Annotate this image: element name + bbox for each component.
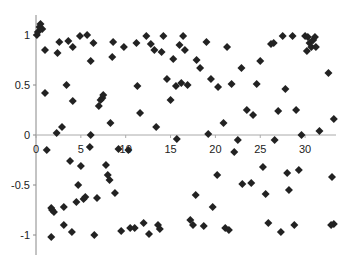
y-tick-label: 1 xyxy=(24,29,30,41)
data-point-diamond xyxy=(249,111,257,119)
data-point-diamond xyxy=(93,194,101,202)
data-point-diamond xyxy=(283,169,291,177)
data-point-diamond xyxy=(167,96,175,104)
x-tick-label: 0 xyxy=(33,143,39,155)
y-tick-label: -1 xyxy=(20,229,30,241)
data-point-diamond xyxy=(176,41,184,49)
data-point-diamond xyxy=(109,38,117,46)
data-point-diamond xyxy=(72,198,80,206)
data-point-diamond xyxy=(53,129,61,137)
data-point-diamond xyxy=(142,32,150,40)
data-point-diamond xyxy=(158,48,166,56)
data-point-diamond xyxy=(87,57,95,65)
data-point-diamond xyxy=(83,31,91,39)
data-point-diamond xyxy=(69,97,77,105)
data-point-diamond xyxy=(234,136,242,144)
data-point-diamond xyxy=(200,222,208,230)
data-point-diamond xyxy=(312,43,320,51)
data-point-diamond xyxy=(202,38,210,46)
data-point-diamond xyxy=(298,131,306,139)
data-point-diamond xyxy=(64,37,72,45)
data-point-diamond xyxy=(277,228,285,236)
data-point-diamond xyxy=(230,148,238,156)
data-point-diamond xyxy=(181,46,189,54)
data-point-diamond xyxy=(111,189,119,197)
data-point-diamond xyxy=(60,221,68,229)
data-point-diamond xyxy=(47,233,55,241)
data-point-diamond xyxy=(271,136,279,144)
data-point-diamond xyxy=(41,89,49,97)
data-point-diamond xyxy=(136,109,144,117)
data-point-diamond xyxy=(214,83,222,91)
data-point-diamond xyxy=(90,231,98,239)
x-tick-label: 5 xyxy=(78,143,84,155)
data-point-diamond xyxy=(204,130,212,138)
data-point-diamond xyxy=(58,123,66,131)
data-point-diamond xyxy=(207,75,215,83)
data-point-diamond xyxy=(106,119,114,127)
x-ticks: 051015202530 xyxy=(33,135,311,155)
data-point-diamond xyxy=(120,43,128,51)
data-point-diamond xyxy=(117,227,125,235)
data-point-diamond xyxy=(223,43,231,51)
data-point-diamond xyxy=(196,64,204,72)
data-point-diamond xyxy=(285,186,293,194)
data-point-diamond xyxy=(95,102,103,110)
data-point-diamond xyxy=(238,180,246,188)
data-point-diamond xyxy=(163,75,171,83)
data-point-diamond xyxy=(247,179,255,187)
data-point-diamond xyxy=(60,203,68,211)
y-ticks: -1-0.500.51 xyxy=(11,29,36,241)
data-point-diamond xyxy=(145,230,153,238)
data-point-diamond xyxy=(133,82,141,90)
data-point-diamond xyxy=(328,173,336,181)
data-point-diamond xyxy=(69,43,77,51)
data-point-diamond xyxy=(213,171,221,179)
data-point-diamond xyxy=(264,219,272,227)
data-point-diamond xyxy=(89,39,97,47)
data-point-diamond xyxy=(289,32,297,40)
data-point-diamond xyxy=(259,163,267,171)
data-point-diamond xyxy=(295,166,303,174)
data-point-diamond xyxy=(131,224,139,232)
data-point-diamond xyxy=(74,181,82,189)
data-point-diamond xyxy=(132,39,140,47)
data-point-diamond xyxy=(55,38,63,46)
y-tick-label: 0.5 xyxy=(15,79,30,91)
data-point-diamond xyxy=(108,53,116,61)
data-point-diamond xyxy=(102,161,110,169)
data-point-diamond xyxy=(274,107,282,115)
data-point-diamond xyxy=(315,127,323,135)
data-point-diamond xyxy=(66,157,74,165)
data-point-diamond xyxy=(219,119,227,127)
data-point-diamond xyxy=(43,146,51,154)
data-point-diamond xyxy=(228,80,236,88)
data-point-diamond xyxy=(86,143,94,151)
axes: -1-0.500.51 051015202530 xyxy=(11,15,336,255)
scatter-chart: -1-0.500.51 051015202530 xyxy=(0,0,349,266)
data-point-diamond xyxy=(159,32,167,40)
data-point-diamond xyxy=(41,46,49,54)
data-point-diamond xyxy=(193,56,201,64)
data-point-diamond xyxy=(77,162,85,170)
data-point-diamond xyxy=(256,57,264,65)
data-point-diamond xyxy=(253,80,261,88)
y-tick-label: -0.5 xyxy=(11,179,30,191)
data-point-diamond xyxy=(140,219,148,227)
data-point-diamond xyxy=(324,69,332,77)
x-tick-label: 15 xyxy=(164,143,176,155)
data-point-diamond xyxy=(152,123,160,131)
data-point-diamond xyxy=(262,190,270,198)
y-tick-label: 0 xyxy=(24,129,30,141)
data-point-diamond xyxy=(290,221,298,229)
data-point-diamond xyxy=(279,32,287,40)
data-point-diamond xyxy=(292,106,300,114)
data-point-diamond xyxy=(237,64,245,72)
data-point-diamond xyxy=(62,81,70,89)
x-tick-label: 25 xyxy=(254,143,266,155)
data-point-diamond xyxy=(209,203,217,211)
data-point-diamond xyxy=(76,32,84,40)
data-point-diamond xyxy=(169,55,177,63)
data-point-diamond xyxy=(173,135,181,143)
data-point-diamond xyxy=(243,106,251,114)
